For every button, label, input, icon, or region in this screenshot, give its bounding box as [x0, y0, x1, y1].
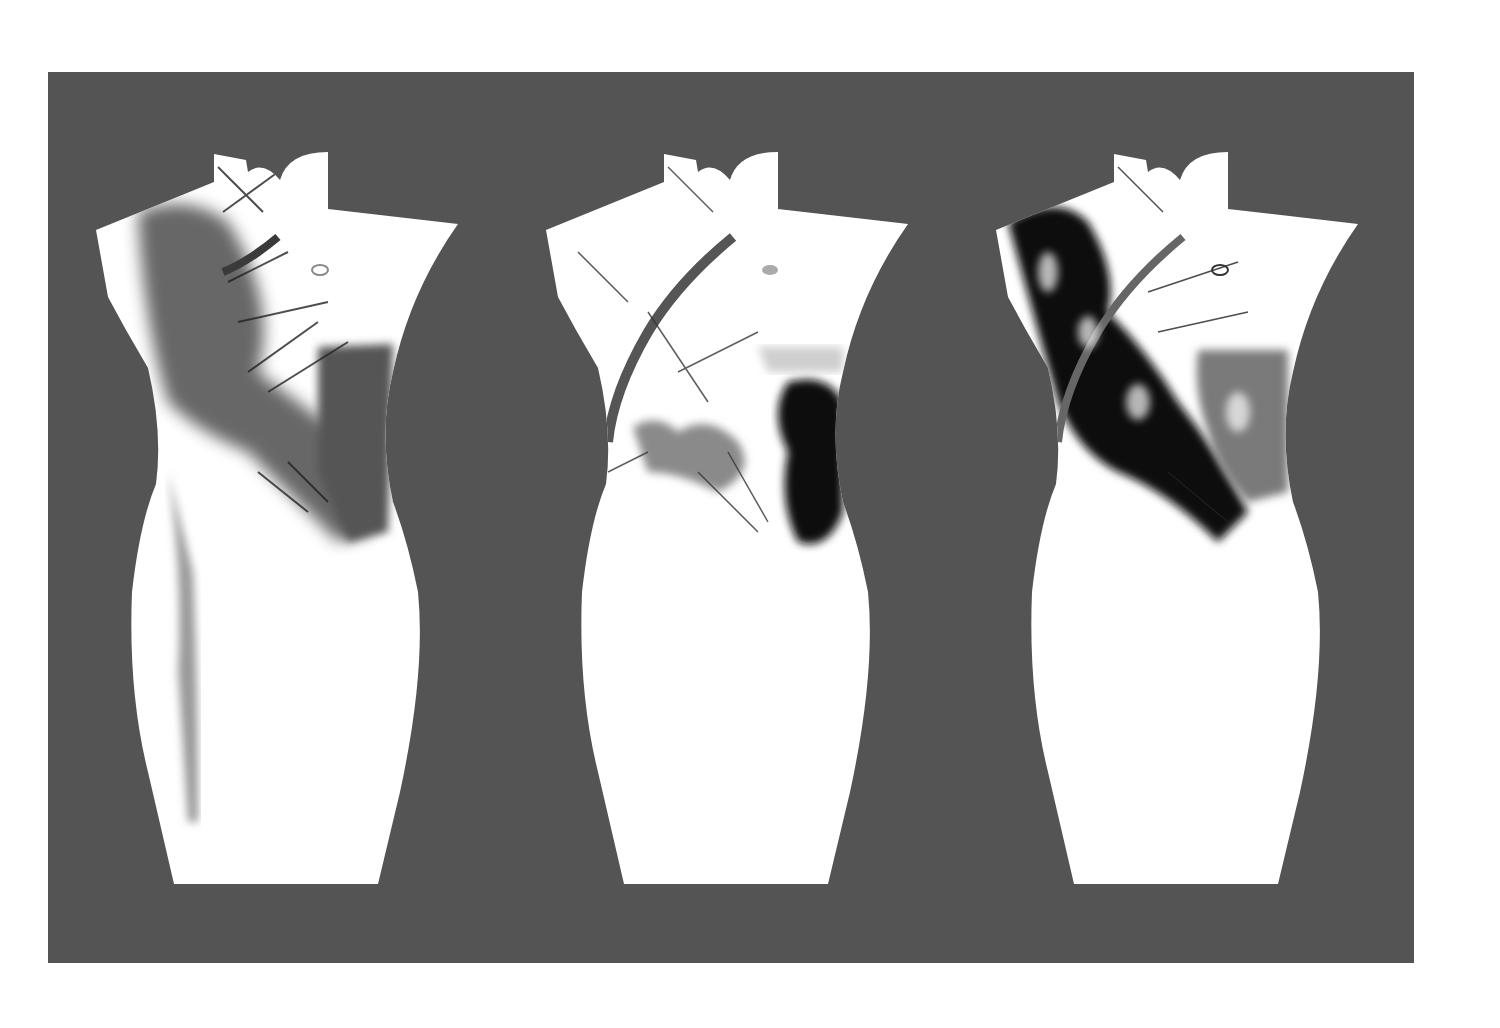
- dress-figure-1: [96, 152, 458, 884]
- artwork-panel: [48, 72, 1414, 963]
- dress-figure-3: [996, 152, 1358, 884]
- qipao-triptych: [48, 72, 1414, 963]
- dress-figure-2: [546, 152, 908, 884]
